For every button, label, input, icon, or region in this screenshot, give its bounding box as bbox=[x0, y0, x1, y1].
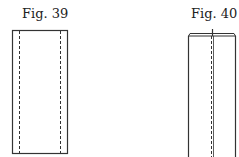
fig-40-drawing bbox=[189, 29, 236, 157]
fig-39-drawing bbox=[13, 31, 68, 154]
fig-39-outline bbox=[13, 31, 68, 154]
diagram-canvas bbox=[0, 0, 239, 157]
